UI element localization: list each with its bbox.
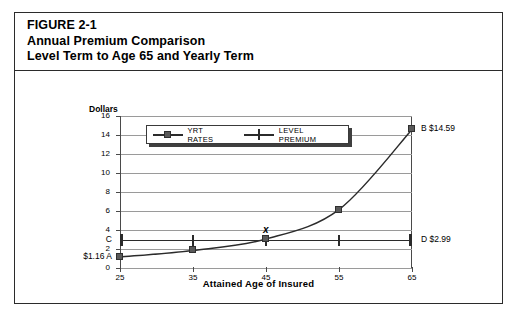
- legend-label-level-premium: LEVEL PREMIUM: [279, 126, 342, 144]
- legend-item-level-premium: LEVEL PREMIUM: [244, 126, 342, 144]
- chart-legend: YRT RATES LEVEL PREMIUM: [146, 125, 349, 144]
- y-tick-label: 16: [90, 111, 110, 120]
- figure-title-line-2: Annual Premium Comparison: [27, 34, 502, 50]
- level-premium-tick: [409, 234, 412, 246]
- level-premium-tick: [192, 235, 194, 246]
- yrt-data-marker: [262, 235, 269, 242]
- y-tick-label: 8: [90, 187, 110, 196]
- figure-page: FIGURE 2-1 Annual Premium Comparison Lev…: [0, 0, 523, 323]
- annotation-b: B $14.59: [421, 123, 455, 133]
- annotation-a: $1.16 A: [83, 251, 112, 261]
- level-premium-tick: [120, 234, 123, 246]
- legend-item-yrt-rates: YRT RATES: [153, 126, 230, 144]
- x-tick-label: 55: [327, 273, 351, 282]
- figure-title-line-1: FIGURE 2-1: [27, 18, 502, 34]
- y-tick-label: 12: [90, 149, 110, 158]
- yrt-data-marker: [189, 246, 196, 253]
- y-tick-label: 14: [90, 130, 110, 139]
- y-tick-label: 0: [90, 263, 110, 272]
- legend-label-yrt-rates: YRT RATES: [187, 126, 230, 144]
- x-tick-label: 45: [254, 273, 278, 282]
- y-tick-label: 10: [90, 168, 110, 177]
- figure-title-block: FIGURE 2-1 Annual Premium Comparison Lev…: [15, 13, 502, 71]
- x-tick-label: 65: [400, 273, 424, 282]
- x-tick-label: 25: [108, 273, 132, 282]
- y-tick-label: 6: [90, 206, 110, 215]
- yrt-data-marker: [116, 253, 123, 260]
- level-premium-tick: [338, 235, 340, 246]
- annotation-x: x: [263, 224, 269, 235]
- square-marker-icon: [153, 129, 182, 140]
- annotation-c: C: [106, 234, 112, 244]
- x-tick-label: 35: [181, 273, 205, 282]
- figure-frame: FIGURE 2-1 Annual Premium Comparison Lev…: [14, 12, 503, 304]
- x-tick-mark: [412, 267, 413, 272]
- yrt-data-marker: [335, 206, 342, 213]
- chart-area: Dollars Attained Age of Insured 02468101…: [15, 71, 502, 303]
- annotation-d: D $2.99: [421, 234, 451, 244]
- figure-title-line-3: Level Term to Age 65 and Yearly Term: [27, 49, 502, 65]
- tick-marker-icon: [244, 129, 273, 140]
- yrt-data-marker: [408, 125, 415, 132]
